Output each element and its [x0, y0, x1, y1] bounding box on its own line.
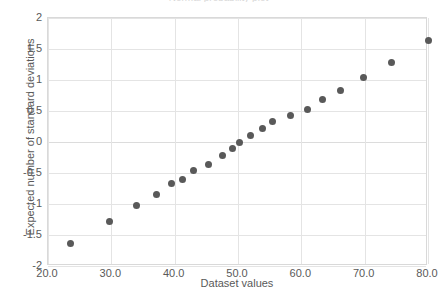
data-point	[304, 106, 311, 113]
data-point	[269, 118, 276, 125]
gridline-x-60	[301, 18, 302, 264]
gridline-x-80	[428, 18, 429, 264]
data-point	[106, 218, 113, 225]
gridline-y--1.5	[48, 235, 426, 236]
data-point	[219, 152, 226, 159]
data-point	[67, 240, 74, 247]
data-point	[168, 180, 175, 187]
data-point	[247, 132, 254, 139]
data-point	[236, 139, 243, 146]
gridline-y--1	[48, 204, 426, 205]
data-point	[287, 112, 294, 119]
gridline-y-0.5	[48, 111, 426, 112]
plot-area	[47, 17, 427, 265]
gridline-x-70	[365, 18, 366, 264]
chart-title: Normal probability plot	[0, 0, 437, 2]
data-point	[259, 125, 266, 132]
y-axis-title: Expected number of standard deviations	[24, 0, 36, 277]
gridline-y-1.5	[48, 49, 426, 50]
data-point	[153, 191, 160, 198]
gridline-y-2	[48, 18, 426, 19]
gridline-y--0.5	[48, 173, 426, 174]
gridline-x-40	[175, 18, 176, 264]
gridline-x-20	[48, 18, 49, 264]
data-point	[388, 59, 395, 66]
data-point	[319, 96, 326, 103]
data-point	[205, 161, 212, 168]
gridline-y-1	[48, 80, 426, 81]
data-point	[229, 145, 236, 152]
data-point	[133, 202, 140, 209]
gridline-x-30	[111, 18, 112, 264]
data-point	[425, 37, 432, 44]
data-point	[179, 176, 186, 183]
x-axis-title: Dataset values	[47, 277, 427, 289]
data-point	[337, 87, 344, 94]
data-point	[360, 74, 367, 81]
